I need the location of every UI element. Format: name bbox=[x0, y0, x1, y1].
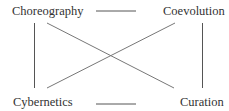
node-curation: Curation bbox=[180, 96, 224, 109]
node-choreography: Choreography bbox=[12, 5, 84, 18]
node-cybernetics: Cybernetics bbox=[13, 96, 73, 109]
node-coevolution: Coevolution bbox=[163, 5, 225, 18]
